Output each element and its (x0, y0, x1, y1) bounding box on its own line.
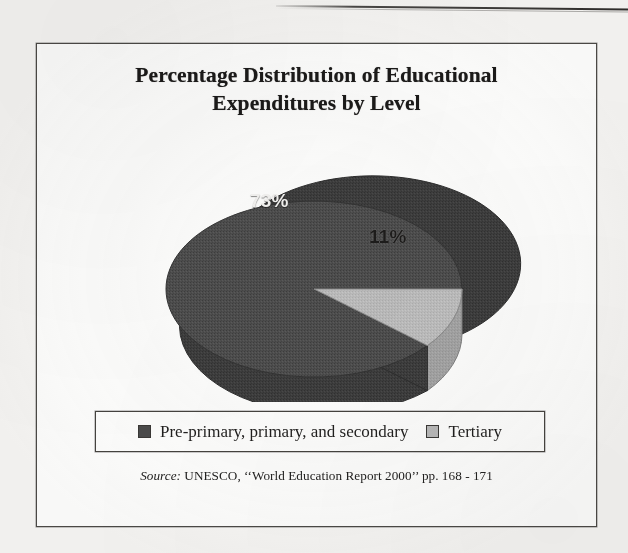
legend-label-major: Pre-primary, primary, and secondary (160, 422, 408, 442)
figure-frame: Percentage Distribution of Educational E… (36, 43, 597, 527)
legend-item-pre-primary-primary-secondary[interactable]: Pre-primary, primary, and secondary (138, 422, 408, 442)
pie-chart: 73% 11% (37, 132, 598, 402)
legend-swatch-icon-major (138, 425, 151, 438)
pie-label-minor: 11% (369, 226, 407, 248)
source-label: Source: (140, 468, 181, 483)
source-note: Source: UNESCO, ‘‘World Education Report… (37, 468, 596, 484)
pie-label-major: 73% (250, 190, 289, 212)
chart-title: Percentage Distribution of Educational E… (37, 62, 596, 118)
legend-label-minor: Tertiary (448, 422, 502, 442)
pie-chart-svg (37, 132, 598, 402)
figure-page: Percentage Distribution of Educational E… (0, 0, 628, 553)
chart-title-line-2: Expenditures by Level (37, 90, 596, 118)
chart-title-line-1: Percentage Distribution of Educational (135, 63, 497, 87)
legend-item-tertiary[interactable]: Tertiary (426, 422, 502, 442)
pie-top-faces (166, 201, 462, 377)
source-text: UNESCO, ‘‘World Education Report 2000’’ … (184, 468, 493, 483)
chart-legend: Pre-primary, primary, and secondary Tert… (95, 411, 545, 452)
legend-swatch-icon-minor (426, 425, 439, 438)
